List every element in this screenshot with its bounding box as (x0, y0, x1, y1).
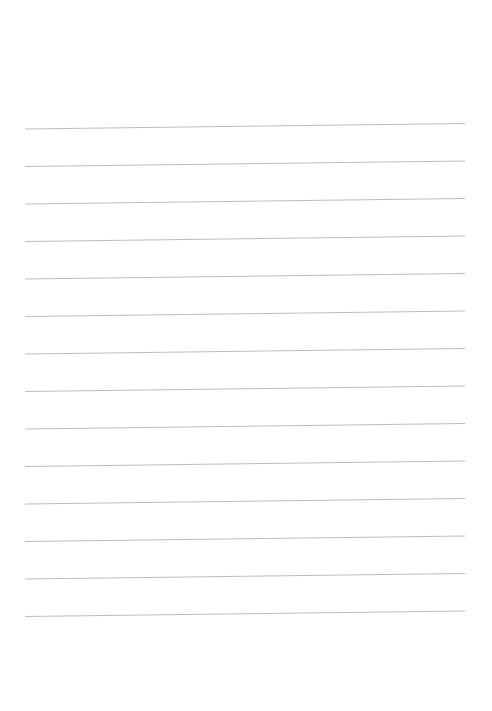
page-background (0, 0, 492, 711)
lined-paper-page (0, 0, 492, 711)
ruled-lines-layer (0, 0, 492, 711)
